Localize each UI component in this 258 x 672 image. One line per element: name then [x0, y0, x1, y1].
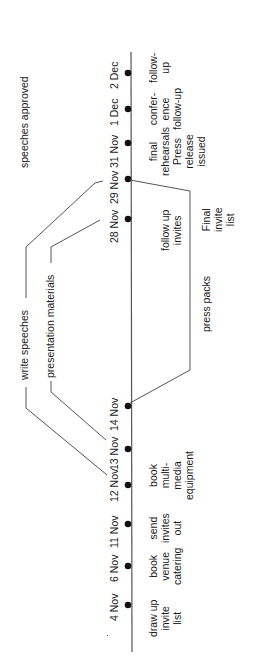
bracket-write-speeches-start — [26, 387, 107, 475]
dot-29-nov — [125, 176, 132, 183]
task-label: draw up invite list — [147, 600, 183, 637]
task-label: Final invite list — [200, 207, 236, 232]
task-label: confer- ence follow-up — [147, 88, 183, 130]
timeline-diagram: 4 Nov 6 Nov 11 Nov 12 Nov 13 Nov 14 Nov … — [0, 0, 258, 672]
task-label: final rehearsals Press release issued — [147, 127, 207, 176]
date-label: 2 Dec — [108, 62, 120, 89]
dot-14-nov — [125, 403, 132, 410]
span-label-write-speeches: write speeches — [18, 310, 30, 380]
task-label: follow up invites — [159, 210, 183, 251]
bracket-presentation-start — [51, 381, 106, 440]
milestone-dots — [125, 70, 132, 609]
task-label: book venue catering — [147, 548, 183, 585]
dot-4-nov — [125, 602, 132, 609]
span-label-presentation-materials: presentation materials — [44, 275, 56, 378]
date-label: 11 Nov — [108, 516, 120, 549]
task-label: follow- up — [147, 53, 171, 83]
timeline-axis — [131, 52, 132, 652]
dot-2-dec — [125, 70, 132, 77]
timeline-graphics — [0, 0, 258, 672]
bracket-presentation-end — [51, 220, 100, 263]
span-label-press-packs: press packs — [200, 276, 212, 332]
dot-6-nov — [125, 563, 132, 570]
dot-1-dec — [125, 106, 132, 113]
date-label: 4 Nov — [108, 594, 120, 621]
date-label: 13 Nov — [108, 437, 120, 470]
date-label: 14 Nov — [108, 398, 120, 431]
dot-11-nov — [125, 521, 132, 528]
span-label-speeches-approved: speeches approved — [18, 76, 30, 168]
dot-28-nov — [125, 216, 132, 223]
task-label: send invites out — [147, 513, 183, 543]
task-label: book multi- media equipment — [147, 451, 195, 500]
date-label: 12 Nov — [108, 469, 120, 502]
date-label: 1 Dec — [108, 99, 120, 126]
dot-12-nov — [125, 482, 132, 489]
date-label: 28 Nov — [108, 210, 120, 243]
date-label: 31 Nov — [108, 135, 120, 168]
dot-13-nov — [125, 446, 132, 453]
date-label: 6 Nov — [108, 555, 120, 582]
dot-31-nov — [125, 140, 132, 147]
date-label: 29 Nov — [108, 171, 120, 204]
